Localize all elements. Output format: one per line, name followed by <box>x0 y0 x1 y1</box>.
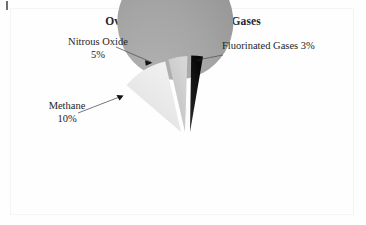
label-fluorinated-gases: Fluorinated Gases 3% <box>222 40 314 53</box>
label-carbon-dioxide: Carbon Dioxide 82% <box>128 148 248 173</box>
label-carbon-dioxide-name: Carbon Dioxide <box>152 148 223 159</box>
pie-chart: Overview of Greenhouse Gases <box>0 0 366 225</box>
label-fluorinated-gases-name: Fluorinated <box>222 40 270 51</box>
label-methane: Methane 10% <box>28 100 106 125</box>
label-nitrous-oxide-name: Nitrous Oxide <box>68 36 128 47</box>
label-nitrous-oxide-value: 5% <box>52 49 144 62</box>
label-fluorinated-gases-value: Gases 3% <box>273 40 315 51</box>
pie-slice-fluorinated-gases[interactable] <box>190 56 203 132</box>
label-methane-value: 10% <box>28 113 106 126</box>
label-methane-name: Methane <box>49 100 86 111</box>
label-carbon-dioxide-value: 82% <box>128 161 248 174</box>
label-nitrous-oxide: Nitrous Oxide 5% <box>52 36 144 61</box>
